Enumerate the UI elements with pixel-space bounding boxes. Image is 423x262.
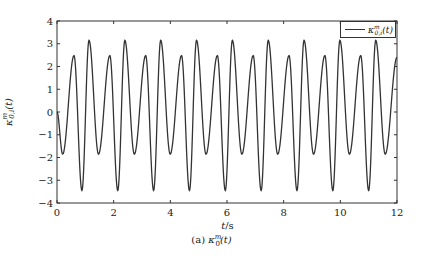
x-tick-label: 10 [334, 207, 347, 218]
y-tick-label: 4 [47, 16, 53, 27]
y-tick-label: −2 [38, 152, 53, 163]
series-line [57, 40, 397, 190]
x-tick-label: 4 [167, 207, 173, 218]
y-tick-label: −4 [38, 198, 53, 209]
x-tick-label: 0 [54, 207, 60, 218]
y-tick-label: −3 [38, 175, 53, 186]
y-tick-label: 2 [47, 61, 53, 72]
x-tick-label: 6 [224, 207, 230, 218]
y-tick-label: 3 [47, 38, 53, 49]
figure-caption: (a) κm0(t) [0, 233, 423, 248]
y-tick-label: 0 [47, 107, 53, 118]
x-tick-label: 12 [391, 207, 404, 218]
y-axis-label: κm0,i(t) [1, 98, 16, 126]
y-tick-label: −1 [38, 129, 53, 140]
x-axis-label: t/s [0, 220, 423, 231]
x-tick-label: 2 [110, 207, 116, 218]
x-tick-label: 8 [280, 207, 286, 218]
legend: κm0,i(t) [340, 21, 396, 38]
legend-line-swatch [345, 29, 365, 30]
y-tick-label: 1 [47, 84, 53, 95]
legend-label: κm0,i(t) [368, 23, 393, 37]
